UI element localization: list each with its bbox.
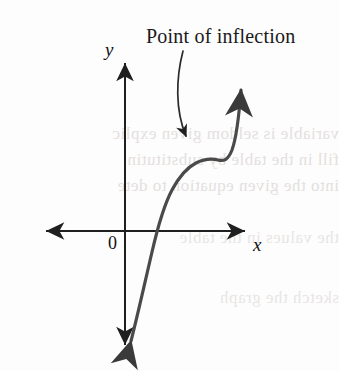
x-axis-label: x: [253, 235, 261, 254]
annotation-label: Point of inflection: [146, 25, 295, 47]
origin-label: 0: [108, 234, 117, 252]
graph-canvas: [0, 0, 339, 371]
y-axis-label: y: [105, 40, 113, 59]
annotation-arrow: [178, 51, 186, 136]
inflection-point-figure: variable is seldom given explic fill in …: [0, 0, 339, 371]
cubic-curve: [131, 90, 241, 341]
